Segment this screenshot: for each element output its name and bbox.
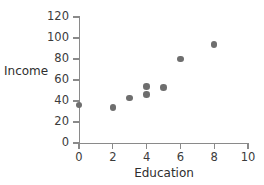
y-axis-title: Income: [4, 65, 48, 77]
data-point: [143, 91, 150, 98]
y-tick-label: 100: [29, 32, 69, 44]
data-point: [76, 102, 83, 109]
y-tick-label: 20: [29, 116, 69, 128]
scatter-chart: 020406080100120 0246810 Income Education: [0, 0, 264, 185]
x-tick-mark: [214, 144, 215, 149]
y-tick-label: 40: [29, 95, 69, 107]
data-point: [211, 41, 218, 48]
x-tick-label: 0: [64, 152, 94, 164]
x-tick-mark: [180, 144, 181, 149]
x-axis-line: [79, 143, 249, 144]
data-point: [177, 56, 184, 63]
y-tick-label: 120: [29, 11, 69, 23]
x-tick-mark: [112, 144, 113, 149]
plot-area: [79, 17, 248, 143]
x-tick-mark: [78, 144, 79, 149]
y-tick-label: 80: [29, 53, 69, 65]
y-tick-label: 0: [29, 137, 69, 149]
x-tick-mark: [146, 144, 147, 149]
x-tick-label: 8: [199, 152, 229, 164]
data-point: [126, 95, 133, 102]
data-point: [143, 83, 150, 90]
x-tick-label: 2: [98, 152, 128, 164]
x-tick-label: 6: [165, 152, 195, 164]
x-tick-label: 4: [132, 152, 162, 164]
x-tick-label: 10: [233, 152, 263, 164]
data-point: [160, 84, 167, 91]
x-axis-title: Education: [79, 167, 249, 179]
data-point: [110, 104, 117, 111]
x-tick-mark: [247, 144, 248, 149]
